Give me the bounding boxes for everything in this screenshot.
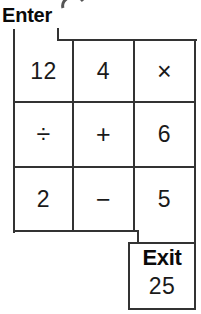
exit-label: Exit — [130, 247, 194, 269]
grid-cell-r1c1: 12 — [14, 40, 73, 102]
enter-label: Enter — [2, 5, 52, 25]
exit-value: 25 — [130, 275, 194, 298]
grid-cell-r1c2: 4 — [73, 40, 134, 102]
grid-cell-r3c2: − — [73, 167, 134, 231]
puzzle-diagram: Enter 12 4 × ÷ + 6 2 − 5 Exit 25 — [0, 0, 201, 314]
grid-cell-r2c2: + — [73, 102, 134, 167]
grid-cell-r1c3: × — [134, 40, 195, 102]
grid-cell-r3c3: 5 — [134, 167, 195, 231]
grid-cell-r3c1: 2 — [14, 167, 73, 231]
grid-cell-r2c1: ÷ — [14, 102, 73, 167]
enter-connector-line — [58, 29, 196, 40]
grid-cell-r2c3: 6 — [134, 102, 195, 167]
cropped-arc-artifact — [63, 0, 83, 8]
